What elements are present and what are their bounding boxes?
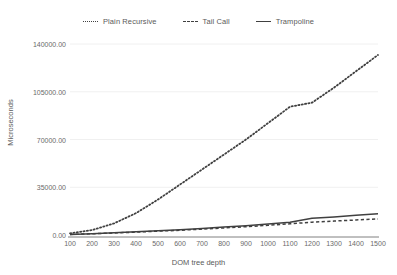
x-tick-label: 200 — [86, 240, 98, 247]
x-tick-label: 600 — [174, 240, 186, 247]
x-tick-label: 1100 — [282, 240, 297, 247]
x-axis-title: DOM tree depth — [0, 258, 397, 267]
x-tick-label: 700 — [196, 240, 208, 247]
series-line-plain-recursive — [70, 55, 378, 233]
x-tick-label: 300 — [108, 240, 120, 247]
x-tick-label: 800 — [218, 240, 230, 247]
x-tick-label: 1000 — [260, 240, 276, 247]
x-tick-label: 500 — [152, 240, 164, 247]
x-tick-label: 400 — [130, 240, 142, 247]
x-tick-label: 100 — [64, 240, 76, 247]
x-tick-label: 1200 — [304, 240, 320, 247]
x-axis-tick-labels: 1002003004005006007008009001000110012001… — [0, 240, 397, 252]
plot-area — [0, 0, 397, 275]
chart-container: Plain Recursive Tail Call Trampoline Mic… — [0, 0, 397, 275]
series-line-trampoline — [70, 214, 378, 235]
x-tick-label: 1300 — [326, 240, 342, 247]
x-tick-label: 900 — [240, 240, 252, 247]
x-tick-label: 1400 — [348, 240, 364, 247]
x-tick-label: 1500 — [370, 240, 386, 247]
